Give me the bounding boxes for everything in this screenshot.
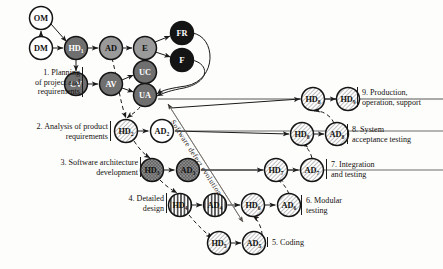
- node-ad4[interactable]: AD4: [204, 194, 227, 217]
- node-hd2[interactable]: HD2: [115, 120, 138, 143]
- phase-label-p4: 4. Detailed design: [104, 194, 164, 213]
- node-label-subscript: 5: [224, 243, 227, 249]
- node-label: E: [142, 43, 148, 53]
- node-e[interactable]: E: [134, 37, 157, 60]
- node-hd6[interactable]: HD6: [242, 194, 265, 217]
- phase-label-rule-p8: [347, 124, 348, 144]
- node-label: UA: [139, 91, 151, 100]
- edge-ad7-hd8-dashed: [302, 145, 312, 158]
- phase-label-p6: 6. Modular testing: [306, 196, 366, 215]
- node-ad[interactable]: AD: [100, 37, 123, 60]
- node-label: FR: [176, 29, 188, 38]
- phase-label-rule-p1: [82, 67, 83, 97]
- diagram-canvas: OMDMHD1ADEFRFCVAVUCUAHD2AD2HD3AD3HD4AD4H…: [0, 0, 443, 269]
- edge-av-uc: [122, 75, 134, 80]
- phase-label-p8: 8. System acceptance testing: [352, 125, 438, 144]
- phase-label-p7: 7. Integration and testing: [331, 160, 395, 179]
- phase-label-rule-p9: [357, 87, 358, 107]
- edge-val-2-8: [175, 131, 289, 134]
- node-hd7[interactable]: HD7: [265, 159, 288, 182]
- node-label-subscript: 4: [220, 205, 223, 211]
- node-label-subscript: 8: [307, 134, 310, 140]
- node-label: DM: [34, 44, 48, 53]
- node-ad6[interactable]: AD6: [278, 194, 301, 217]
- phase-label-rule-p4: [166, 193, 167, 213]
- node-label: UC: [139, 68, 151, 77]
- edge-ad8-hd8b-dashed: [314, 111, 334, 123]
- phase-label-rule-p2: [110, 121, 111, 141]
- edge-av-ua: [122, 88, 134, 92]
- edge-e-fr: [155, 36, 170, 42]
- node-label-subscript: 7: [281, 170, 284, 176]
- phase-label-rule-p6: [301, 195, 302, 215]
- node-hd8b[interactable]: HD8: [302, 88, 325, 111]
- node-label-subscript: 2: [131, 131, 134, 137]
- edge-om-hd1: [51, 24, 67, 42]
- node-uc[interactable]: UC: [134, 61, 157, 84]
- node-label-subscript: 6: [258, 205, 261, 211]
- node-label-subscript: 9: [353, 99, 356, 105]
- phase-label-rule-p3: [140, 157, 141, 177]
- node-fr[interactable]: FR: [171, 22, 194, 45]
- node-hd4[interactable]: HD4: [169, 194, 192, 217]
- edge-hd3-hd4-dashed: [160, 180, 177, 193]
- edge-ad6-hd7-dashed: [277, 181, 289, 194]
- node-label: AD: [105, 44, 117, 53]
- node-hd5[interactable]: HD5: [208, 232, 231, 255]
- node-label-subscript: 6: [294, 205, 297, 211]
- edge-hd4-hd5-dashed: [189, 215, 212, 238]
- node-om[interactable]: OM: [30, 7, 53, 30]
- node-f[interactable]: F: [171, 49, 194, 72]
- node-hd1[interactable]: HD1: [65, 37, 88, 60]
- node-label-subscript: 7: [317, 170, 320, 176]
- phase-label-p2: 2. Analysis of product requirements: [4, 122, 108, 141]
- edge-ua-hd2-dashed: [127, 107, 140, 118]
- node-dm[interactable]: DM: [30, 37, 53, 60]
- node-label-subscript: 1: [81, 48, 84, 54]
- edge-e-f: [156, 52, 171, 57]
- node-ad8[interactable]: AD8: [326, 123, 349, 146]
- phase-label-p9: 9. Production, operation, support: [362, 88, 443, 107]
- node-label-subscript: 3: [157, 170, 160, 176]
- node-hd8[interactable]: HD8: [291, 123, 314, 146]
- phase-label-rule-p7: [326, 159, 327, 179]
- phase-label-rule-p5: [267, 237, 268, 247]
- phase-label-p1: 1. Planning of project and requirements: [2, 68, 80, 97]
- node-label-subscript: 8: [342, 134, 345, 140]
- node-label-subscript: 4: [185, 205, 188, 211]
- phase-label-p5: 5. Coding: [272, 238, 332, 248]
- node-label-subscript: 3: [193, 170, 196, 176]
- node-label-subscript: 5: [259, 243, 262, 249]
- phase-label-p3: 3. Software architecture development: [22, 158, 138, 177]
- node-label: OM: [34, 14, 48, 23]
- node-label-subscript: 2: [167, 131, 170, 137]
- node-ua[interactable]: UA: [134, 84, 157, 107]
- node-ad5[interactable]: AD5: [243, 232, 266, 255]
- node-label-subscript: 8: [318, 99, 321, 105]
- node-hd3[interactable]: HD3: [141, 159, 164, 182]
- node-label: AV: [106, 80, 117, 89]
- edge-hd2-hd3-dashed: [134, 141, 150, 158]
- node-av[interactable]: AV: [100, 73, 123, 96]
- node-ad7[interactable]: AD7: [301, 159, 324, 182]
- edge-val-1-9: [171, 99, 300, 108]
- node-label: F: [179, 55, 184, 65]
